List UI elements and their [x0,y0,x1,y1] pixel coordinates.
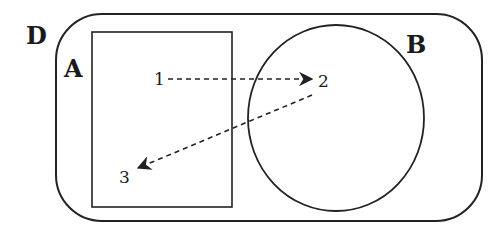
arrow-2-to-3 [138,95,312,168]
venn-diagram: D A B 1 2 3 [0,0,497,235]
set-a-boundary [92,32,232,207]
point-3-label: 3 [119,167,130,187]
point-1-label: 1 [154,69,165,89]
point-2-label: 2 [318,71,329,91]
set-a-label: A [63,54,83,83]
set-b-boundary [248,25,424,211]
set-d-label: D [26,21,47,50]
set-b-label: B [406,30,426,59]
